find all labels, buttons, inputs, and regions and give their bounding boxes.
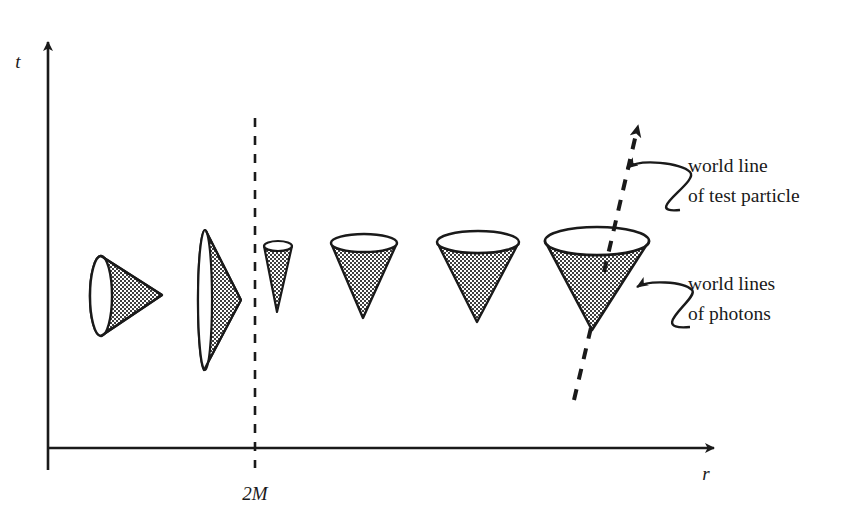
annotation-photons-line2: of photons [688, 303, 771, 324]
annotation-world-line-line2: of test particle [688, 185, 800, 206]
light-cone-4 [331, 234, 397, 318]
photons-leader-curve [637, 282, 693, 327]
cone-5-mouth [437, 231, 519, 253]
light-cone-2 [198, 230, 241, 370]
cone-4-body [331, 243, 397, 318]
light-cone-1 [90, 256, 162, 336]
figure-canvas: t r 2M [0, 0, 843, 521]
horizon-tick-label-2M: 2M [242, 483, 269, 504]
radial-axis-label: r [702, 463, 710, 484]
world-line-leader-curve [627, 162, 691, 210]
light-cone-5 [437, 231, 519, 322]
annotation-photons-line1: world lines [688, 273, 775, 294]
event-horizon-group: 2M [242, 118, 269, 504]
time-axis-label: t [15, 51, 21, 72]
annotation-photons-text: world lines of photons [688, 273, 775, 324]
cone-6-mouth [545, 227, 649, 255]
lightcone-diagram-figure: t r 2M [0, 0, 843, 521]
light-cone-6 [545, 227, 649, 330]
light-cone-3 [264, 241, 292, 312]
cone-3-mouth [264, 241, 292, 251]
cone-3-body [264, 246, 292, 312]
cone-4-mouth [331, 234, 397, 252]
annotation-world-line-text: world line of test particle [688, 155, 800, 206]
annotation-leader-photons [637, 282, 693, 327]
cone-1-mouth [90, 256, 112, 336]
cone-2-mouth [198, 230, 212, 370]
annotation-world-line-line1: world line [688, 155, 768, 176]
annotation-leader-world-line [627, 162, 691, 210]
